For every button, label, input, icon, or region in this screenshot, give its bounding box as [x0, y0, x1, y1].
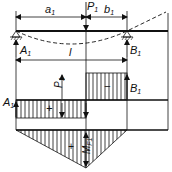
- shear-p-label: P1: [53, 77, 65, 88]
- span-label: l: [69, 46, 72, 58]
- load-label: P1: [87, 0, 98, 13]
- shear-minus-label: −: [104, 80, 111, 92]
- support-b: [121, 31, 133, 40]
- reaction-a-label: A1: [19, 44, 31, 57]
- shear-b-label: B1: [130, 82, 141, 95]
- beam-diagram-svg: a1 b1 P1 A1 B1 l: [0, 0, 172, 172]
- moment-diagram: [16, 130, 168, 168]
- dim-a-label: a1: [45, 3, 55, 16]
- moment-plus-label: +: [68, 141, 74, 152]
- beam-diagram: a1 b1 P1 A1 B1 l: [0, 0, 172, 172]
- shear-plus-label: +: [46, 102, 53, 114]
- shear-diagram: [16, 73, 168, 118]
- reaction-b-label: B1: [130, 44, 141, 57]
- dim-b-label: b1: [104, 3, 114, 16]
- shear-a-label: A1: [2, 96, 14, 109]
- support-a: [10, 31, 22, 40]
